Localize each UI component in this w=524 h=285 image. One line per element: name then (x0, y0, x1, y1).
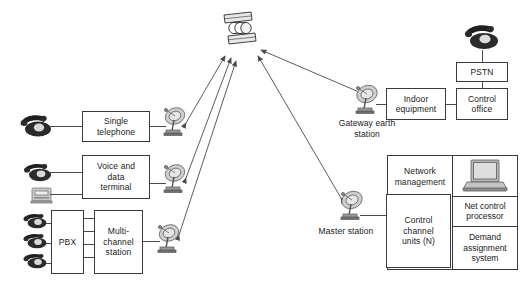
satellite-dish-icon (334, 188, 368, 222)
wire-phone-to-single-telephone (50, 126, 83, 127)
demand-assignment-system-cell: Demand assignment system (452, 226, 518, 270)
multichannel-label-line1: Multi- (101, 226, 135, 237)
single-telephone-box: Single telephone (82, 111, 150, 142)
pbx-label: PBX (57, 237, 78, 248)
net-control-processor-cell: Net control processor (452, 196, 518, 226)
wire-pbx-to-multichannel-4 (84, 257, 94, 258)
wire-master-dish-to-control-channel-units (360, 215, 387, 216)
pstn-label: PSTN (468, 67, 495, 78)
demand-label-line2: assignment (463, 243, 506, 253)
telephone-icon (22, 252, 50, 270)
indoor-equipment-label-line2: equipment (394, 104, 439, 115)
multichannel-label-line3: station (101, 247, 135, 258)
control-office-box: Control office (456, 88, 508, 120)
control-units-label-line1: Control (400, 215, 437, 226)
voice-data-label-line1: Voice and (95, 161, 137, 172)
control-office-label-line1: Control (466, 94, 498, 105)
telephone-icon (22, 212, 50, 230)
wire-gateway-dish-to-indoor-equipment (376, 104, 386, 105)
telephone-icon (22, 232, 50, 250)
control-channel-units-box: Control channel units (N) (386, 194, 451, 268)
wire-pbx-to-multichannel-2 (84, 231, 94, 232)
satellite-icon (215, 9, 267, 49)
multichannel-label-line2: channel (101, 237, 135, 248)
gateway-earth-station-label: Gateway earth station (322, 118, 412, 139)
wire-terminal-device-to-voice-data-terminal (50, 194, 83, 195)
demand-label-line1: Demand (469, 232, 501, 242)
wire-pstn-to-control-office (482, 82, 483, 89)
control-units-label-line2: channel (400, 226, 437, 237)
network-management-label-line1: Network (404, 166, 436, 176)
network-management-label: Network management (390, 166, 450, 187)
voice-data-label-line3: terminal (95, 182, 137, 193)
laptop-computer-icon (462, 158, 510, 194)
link-satellite-voice-data-terminal (186, 58, 231, 178)
network-management-label-line2: management (395, 177, 446, 187)
wire-pbx-to-multichannel-3 (84, 244, 94, 245)
indoor-equipment-box: Indoor equipment (386, 88, 446, 120)
pstn-box: PSTN (456, 62, 508, 82)
net-control-label-line1: Net control (464, 201, 505, 211)
link-satellite-multichannel-station (179, 61, 236, 235)
satellite-dish-icon (158, 162, 190, 194)
single-telephone-label-line1: Single (95, 116, 137, 127)
voice-and-data-terminal-box: Voice and data terminal (82, 155, 150, 199)
pbx-box: PBX (51, 210, 84, 274)
net-control-label-line2: processor (466, 211, 503, 221)
control-units-label-line3: units (N) (400, 236, 437, 247)
satellite-network-diagram: Single telephone (0, 0, 524, 285)
satellite-dish-icon (152, 222, 184, 254)
data-terminal-icon (30, 185, 54, 205)
master-station-label: Master station (306, 226, 386, 237)
wire-phone-to-voice-data-terminal (50, 172, 83, 173)
telephone-icon (462, 22, 502, 52)
satellite-dish-icon (158, 105, 190, 137)
telephone-icon (18, 112, 54, 138)
voice-data-label-line2: data (95, 172, 137, 183)
indoor-equipment-label-line1: Indoor (394, 94, 439, 105)
gateway-label-line2: station (354, 129, 380, 139)
demand-label-line3: system (472, 253, 499, 263)
satellite-dish-icon (349, 82, 383, 116)
wire-pbx-to-multichannel-1 (84, 218, 94, 219)
multi-channel-station-box: Multi- channel station (94, 210, 143, 274)
control-office-label-line2: office (466, 104, 498, 115)
single-telephone-label-line2: telephone (95, 127, 137, 138)
